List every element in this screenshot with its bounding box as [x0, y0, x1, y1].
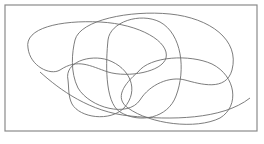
curve-large-right [72, 13, 233, 109]
curve-tall-middle [107, 18, 182, 118]
curve-large-left [28, 22, 167, 75]
curve-bottom-sweep [40, 72, 250, 118]
diagram-canvas [0, 0, 264, 144]
curves-group [28, 13, 250, 124]
curve-lower-right [121, 58, 233, 124]
diagram-svg [0, 0, 264, 144]
